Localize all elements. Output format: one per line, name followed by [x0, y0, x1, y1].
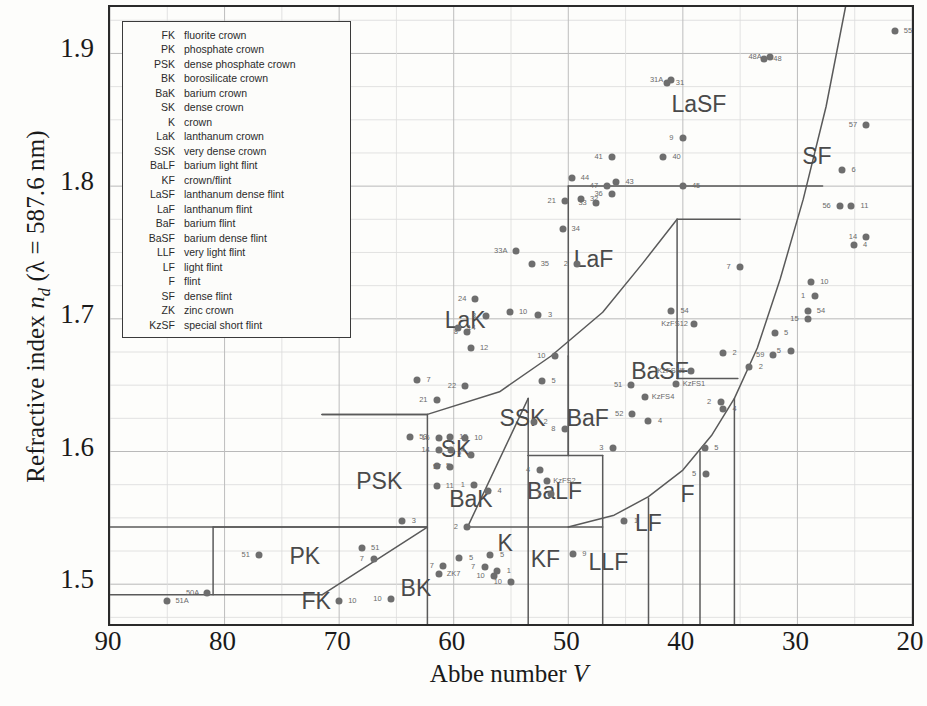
data-point — [702, 471, 709, 478]
x-tick-label: 40 — [651, 626, 711, 657]
data-point-label: 9 — [669, 133, 673, 142]
data-point — [737, 264, 744, 271]
data-point — [464, 524, 471, 531]
legend-abbreviation: K — [127, 115, 184, 129]
data-point-label: 2 — [759, 361, 763, 370]
region-label-bk: BK — [401, 575, 432, 602]
data-point — [766, 54, 773, 61]
legend-description: dense phosphate crown — [184, 57, 346, 71]
data-point-label: 10 — [537, 350, 545, 359]
data-point-label: 3 — [548, 309, 552, 318]
y-tick-label: 1.9 — [14, 33, 94, 64]
legend-description: lanthanum flint — [184, 202, 346, 216]
data-point — [746, 363, 753, 370]
data-point-label: 7 — [427, 374, 431, 383]
legend-description: flint — [184, 274, 346, 288]
data-point-label: 51 — [371, 543, 379, 552]
data-point-label: 9 — [582, 548, 586, 557]
data-point — [668, 76, 675, 83]
data-point — [433, 396, 440, 403]
legend-row: BaLFbarium light flint — [127, 158, 346, 172]
data-point — [804, 307, 811, 314]
legend-abbreviation: SF — [127, 289, 184, 303]
data-point-label: 14 — [421, 445, 429, 454]
data-point-label: 14 — [849, 231, 857, 240]
data-point-label: 35 — [541, 259, 549, 268]
data-point-label: 10 — [519, 307, 527, 316]
data-point — [487, 552, 494, 559]
data-point-label: 4 — [732, 404, 736, 413]
data-point-label: 7 — [360, 553, 364, 562]
data-point-label: 50A — [186, 588, 199, 597]
y-tick-label: 1.8 — [14, 166, 94, 197]
data-point — [804, 315, 811, 322]
data-point-label: 5 — [537, 488, 541, 497]
data-point — [839, 167, 846, 174]
data-point — [494, 567, 501, 574]
data-point-label: 8 — [472, 311, 476, 320]
data-point-label: 33A — [494, 246, 507, 255]
legend-row: PSKdense phosphate crown — [127, 57, 346, 71]
data-point — [435, 435, 442, 442]
data-point — [530, 419, 537, 426]
region-label-lasf: LaSF — [671, 90, 726, 117]
data-point — [613, 179, 620, 186]
data-point-label: 57 — [433, 462, 441, 471]
y-axis-title-suffix: (λ = 587.6 nm) — [22, 130, 49, 288]
legend-row: KzSFspecial short flint — [127, 318, 346, 332]
legend-abbreviation: LaF — [127, 202, 184, 216]
data-point — [629, 411, 636, 418]
data-point — [414, 376, 421, 383]
legend-abbreviation: KF — [127, 173, 184, 187]
legend-row: ZKzinc crown — [127, 303, 346, 317]
data-point-label: 3 — [412, 515, 416, 524]
data-point — [399, 517, 406, 524]
legend-row: Fflint — [127, 274, 346, 288]
data-point-label: 2 — [732, 348, 736, 357]
data-point-label: 1 — [507, 565, 511, 574]
legend-abbreviation: BaK — [127, 86, 184, 100]
data-point-label: 57 — [849, 120, 857, 129]
data-point-label: 1 — [801, 291, 805, 300]
data-point-label: 4 — [863, 239, 867, 248]
data-point-label: 1 — [634, 515, 638, 524]
legend-abbreviation: BK — [127, 71, 184, 85]
y-tick-label: 1.7 — [14, 299, 94, 330]
data-point — [621, 517, 628, 524]
region-label-psk: PSK — [356, 467, 402, 494]
data-point — [608, 191, 615, 198]
data-point — [359, 545, 366, 552]
legend-row: BKborosilicate crown — [127, 71, 346, 85]
data-point-label: 7 — [430, 560, 434, 569]
x-tick-label: 20 — [880, 626, 927, 657]
data-point-label: 40 — [672, 151, 680, 160]
y-axis-title-subscript: d — [35, 288, 54, 296]
legend-row: LaFlanthanum flint — [127, 202, 346, 216]
data-point — [204, 590, 211, 597]
data-point — [668, 307, 675, 314]
data-point — [592, 200, 599, 207]
data-point — [848, 203, 855, 210]
x-axis-title-text: Abbe number — [430, 660, 573, 687]
legend-description: barium crown — [184, 86, 346, 100]
data-point — [482, 313, 489, 320]
data-point-label: 31 — [676, 77, 684, 86]
data-point-label: 33 — [578, 198, 586, 207]
data-point — [435, 570, 442, 577]
data-point-label: 43 — [625, 177, 633, 186]
data-point-label: 5 — [692, 469, 696, 478]
data-point-label: 54 — [817, 305, 825, 314]
data-point — [628, 382, 635, 389]
legend-description: barium light flint — [184, 158, 346, 172]
legend-row: BaSFbarium dense flint — [127, 231, 346, 245]
data-point-label: KzFS1 — [683, 378, 706, 387]
region-label-laf: LaF — [574, 246, 614, 273]
x-tick-label: 70 — [307, 626, 367, 657]
data-point-label: 10 — [820, 276, 828, 285]
data-point — [672, 380, 679, 387]
data-point-label: 10 — [474, 433, 482, 442]
legend-description: special short flint — [184, 318, 346, 332]
data-point — [701, 444, 708, 451]
region-label-kf: KF — [531, 545, 560, 572]
data-point — [472, 295, 479, 302]
